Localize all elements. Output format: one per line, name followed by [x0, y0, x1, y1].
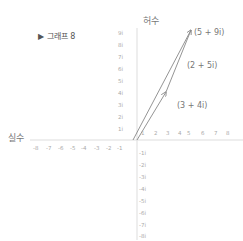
vector-5-9i — [133, 30, 191, 140]
y-tick: 8i — [118, 42, 123, 48]
y-tick: -8i — [139, 233, 146, 239]
y-tick: 6i — [118, 66, 123, 72]
x-tick: 1 — [141, 130, 145, 136]
imag-axis-label: 허수 — [143, 14, 159, 27]
x-tick: -5 — [70, 145, 75, 151]
y-tick: -3i — [139, 174, 146, 180]
label-v2: (2 + 5i) — [187, 61, 217, 70]
y-tick: -6i — [139, 210, 146, 216]
x-tick: 3 — [166, 130, 170, 136]
y-tick: 1i — [118, 126, 123, 132]
x-tick: 2 — [154, 130, 158, 136]
x-tick: -7 — [46, 145, 51, 151]
y-tick: 2i — [118, 114, 123, 120]
y-tick: -2i — [139, 162, 146, 168]
x-tick: -4 — [81, 145, 86, 151]
y-tick: -1i — [139, 150, 146, 156]
label-v1: (3 + 4i) — [177, 101, 207, 110]
real-axis-label: 실수 — [8, 131, 24, 144]
y-tick: 9i — [118, 30, 123, 36]
y-tick: 5i — [118, 78, 123, 84]
graph-caption: ▶ 그래프 8 — [38, 30, 75, 41]
y-tick: 7i — [118, 54, 123, 60]
y-tick: 3i — [118, 102, 123, 108]
y-tick: -7i — [139, 222, 146, 228]
x-tick: -6 — [58, 145, 63, 151]
x-tick: 4 — [178, 130, 182, 136]
label-sum: (5 + 9i) — [194, 28, 224, 37]
x-tick: 5 — [187, 130, 191, 136]
y-tick: -5i — [139, 198, 146, 204]
x-tick: 7 — [214, 130, 218, 136]
x-tick: -1 — [117, 145, 122, 151]
x-tick: -3 — [94, 145, 99, 151]
y-tick: -4i — [139, 186, 146, 192]
y-tick: 4i — [118, 90, 123, 96]
x-tick: -8 — [33, 145, 38, 151]
x-tick: 8 — [226, 130, 230, 136]
x-tick: 6 — [201, 130, 205, 136]
x-tick: -2 — [106, 145, 111, 151]
